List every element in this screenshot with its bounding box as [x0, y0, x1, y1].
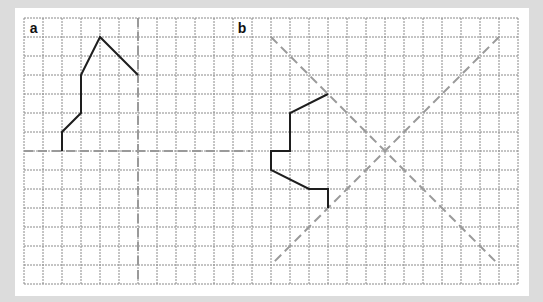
shapes: [62, 37, 328, 208]
reflection-grid-figure: a b: [0, 0, 543, 302]
panel-label-a: a: [30, 20, 38, 36]
panel-label-b: b: [238, 20, 247, 36]
